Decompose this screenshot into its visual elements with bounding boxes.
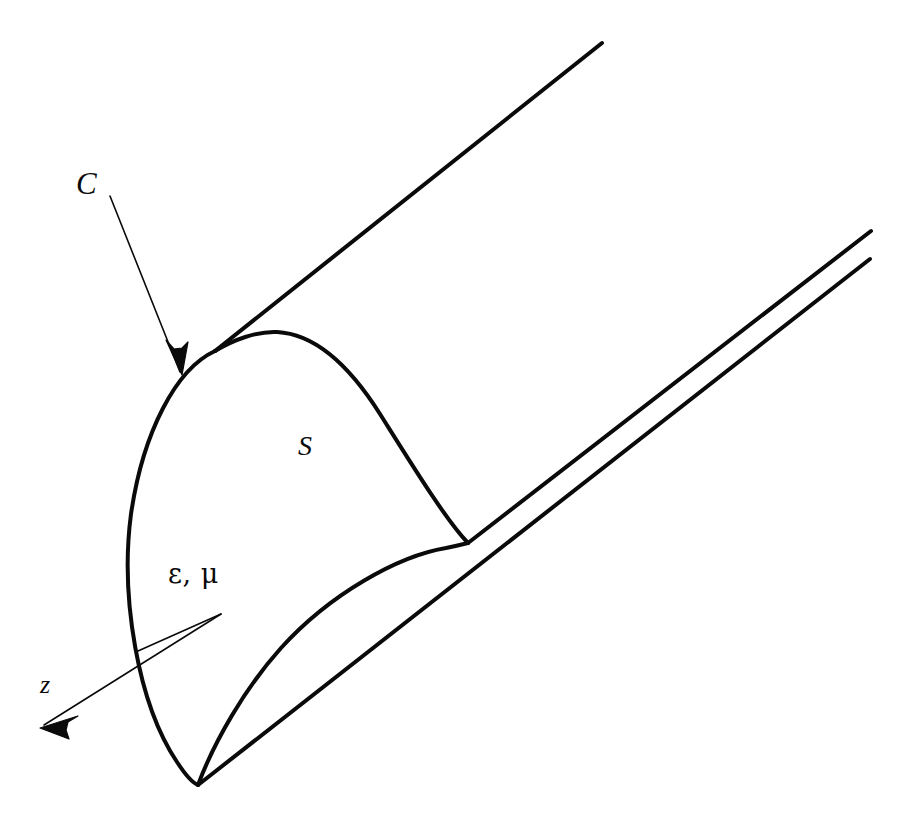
tube-right-upper-edge-line [468, 231, 871, 543]
cross-section-top-boundary-curve [215, 332, 468, 543]
cross-section-inner-boundary-curve [198, 543, 468, 785]
waveguide-drawing [0, 0, 918, 823]
axis-label-z: z [40, 672, 50, 698]
medium-label-epsilon-mu: ε, μ [168, 560, 219, 587]
tube-top-edge-line [215, 43, 602, 351]
contour-arrowhead-icon [166, 340, 188, 375]
surface-label-S: S [298, 432, 312, 460]
medium-leader-line [138, 614, 221, 651]
axis-arrowhead-icon [40, 716, 78, 739]
waveguide-figure: C S ε, μ z [0, 0, 918, 823]
contour-label-C: C [76, 168, 97, 199]
